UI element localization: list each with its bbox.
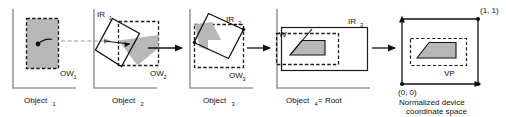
- panel-4-caption: Object: [286, 96, 310, 105]
- connector-3-arrowhead: [263, 45, 271, 52]
- panel-5-corner-origin-label: (0, 0): [398, 88, 417, 97]
- panel-3-corner-dot-left: [193, 41, 196, 44]
- panel-4-clipped-region: [290, 41, 325, 56]
- panel-3-window-label: OW: [229, 71, 243, 80]
- panel-2-caption-sub: 2: [141, 101, 144, 107]
- panel-4-instance-label: IR: [348, 17, 356, 26]
- diagram-canvas: OW 1 Object 1 IR 1 OW 2 Object 2: [0, 0, 506, 117]
- panel-4-window-label: W: [279, 30, 287, 39]
- panel-3-instance-label-sub: 2: [238, 20, 241, 26]
- panel-5-corner-far-label: (1, 1): [480, 6, 499, 15]
- panel-1-window-label: OW: [60, 69, 74, 78]
- panel-5-caption-line-1: Normalized device: [399, 98, 465, 107]
- panel-1-caption: Object: [24, 96, 48, 105]
- panel-4: IR 3 W Object 4 = Root: [277, 9, 371, 107]
- panel-1-output-window-rect: [27, 19, 59, 69]
- panel-3: IR 2 OW 3 Object 3: [190, 9, 253, 107]
- connector-2-arrowhead: [175, 45, 183, 52]
- panel-3-clipped-region: [195, 22, 222, 50]
- panel-2: IR 1 OW 2 Object 2: [94, 9, 167, 107]
- panel-2-window-label-sub: 2: [164, 74, 167, 80]
- panel-5-clipped-region: [417, 43, 456, 59]
- panel-2-caption: Object: [112, 96, 136, 105]
- panel-3-window-label-sub: 3: [243, 76, 246, 82]
- panel-5: (1, 1) (0, 0) VP Normalized device coord…: [398, 6, 499, 116]
- panel-3-corner-dot-right: [242, 28, 245, 31]
- panel-3-instance-label: IR: [226, 15, 234, 24]
- connector-1: [61, 38, 110, 44]
- panel-1: OW 1 Object 1: [13, 9, 77, 107]
- object-hierarchy-diagram: OW 1 Object 1 IR 1 OW 2 Object 2: [0, 0, 506, 117]
- connector-4: [372, 45, 396, 52]
- panel-2-window-label: OW: [150, 69, 164, 78]
- panel-1-caption-sub: 1: [53, 101, 56, 107]
- panel-2-instance-label-sub: 1: [109, 15, 112, 21]
- panel-5-origin-dot: [400, 82, 404, 86]
- panel-5-corner-dot-br: [476, 82, 480, 86]
- connector-3: [247, 45, 271, 52]
- panel-5-far-corner-dot: [476, 17, 480, 21]
- panel-2-instance-label: IR: [97, 10, 105, 19]
- panel-5-viewport-label: VP: [444, 69, 455, 78]
- panel-3-caption: Object: [203, 96, 227, 105]
- panel-5-caption-line-2: coordinate space: [406, 107, 467, 116]
- connector-4-arrowhead: [388, 45, 396, 52]
- panel-4-caption-tail: = Root: [318, 96, 343, 105]
- panel-1-window-label-sub: 1: [74, 74, 77, 80]
- panel-4-instance-label-sub: 3: [360, 22, 363, 28]
- panel-3-caption-sub: 3: [232, 101, 235, 107]
